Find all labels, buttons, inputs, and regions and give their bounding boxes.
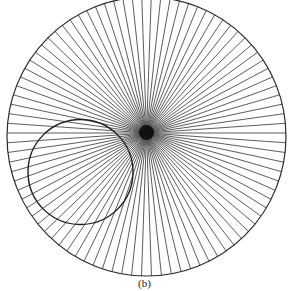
figure-caption: (b) <box>0 276 289 290</box>
ray-convergence-point <box>139 125 154 140</box>
radial-ray-diagram <box>0 0 289 291</box>
